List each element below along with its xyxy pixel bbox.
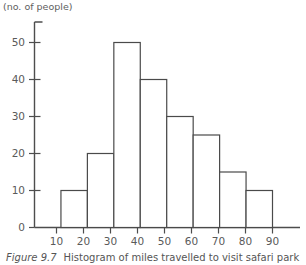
histogram-bar (220, 172, 246, 228)
histogram-bar (193, 135, 219, 228)
histogram-figure: (no. of people) 0 10 20 30 40 50 (0, 0, 306, 265)
y-tick-label: 0 (18, 221, 25, 233)
histogram-bar (114, 43, 140, 228)
histogram-bar (246, 191, 272, 228)
x-tick-label: 20 (77, 235, 90, 247)
y-axis-tick-labels: 0 10 20 30 40 50 (12, 36, 25, 233)
y-tick-label: 40 (12, 73, 25, 85)
x-axis-ticks (57, 228, 273, 234)
figure-caption-text: Histogram of miles travelled to visit sa… (64, 252, 300, 263)
x-tick-label: 10 (50, 235, 63, 247)
y-tick-label: 30 (12, 110, 25, 122)
x-tick-label: 50 (158, 235, 171, 247)
histogram-bar (87, 154, 113, 228)
x-tick-label: 80 (239, 235, 252, 247)
figure-caption-number: Figure 9.7 (6, 252, 57, 263)
x-tick-label: 40 (131, 235, 144, 247)
x-tick-label: 30 (104, 235, 117, 247)
x-tick-label: 70 (212, 235, 225, 247)
y-tick-label: 20 (12, 147, 25, 159)
histogram-bar (61, 191, 87, 228)
y-tick-label: 50 (12, 36, 25, 48)
histogram-bars (61, 43, 273, 228)
x-tick-label: 60 (185, 235, 198, 247)
y-axis-line (35, 22, 43, 228)
histogram-bar (167, 117, 193, 228)
figure-caption: Figure 9.7Histogram of miles travelled t… (6, 252, 306, 264)
histogram-plot: 0 10 20 30 40 50 10 20 30 40 50 60 (0, 0, 306, 250)
y-tick-label: 10 (12, 184, 25, 196)
x-axis-label: Miles (266, 248, 290, 250)
x-axis-tick-labels: 10 20 30 40 50 60 70 80 90 (50, 235, 279, 247)
x-tick-label: 90 (266, 235, 279, 247)
histogram-bar (140, 80, 166, 228)
